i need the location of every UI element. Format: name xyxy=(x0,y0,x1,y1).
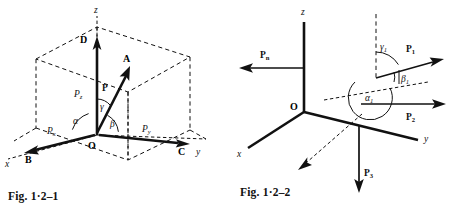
angle-arcs-fig2 xyxy=(348,52,399,120)
construction-lines-fig2 xyxy=(298,14,428,170)
figure-1-2-2-caption: Fig. 1·2–2 xyxy=(240,186,291,198)
p3-sub: 3 xyxy=(370,172,374,179)
vector-px-fig1 xyxy=(24,135,95,154)
point-a-label-fig1: A xyxy=(123,53,131,64)
figure-board: z D A O B C x y Pz P Px xyxy=(0,0,449,215)
px-sub: x xyxy=(52,130,56,137)
p2-sub: 2 xyxy=(412,116,416,123)
point-d-label-fig1: D xyxy=(80,34,87,45)
point-b-label-fig1: B xyxy=(25,154,32,165)
svg-text:P1: P1 xyxy=(406,44,415,55)
svg-text:Pn: Pn xyxy=(260,50,270,61)
angle-beta1-label-fig2: β1 xyxy=(400,74,409,85)
p1-sub: 1 xyxy=(412,48,415,55)
vector-pn-fig2: Pn xyxy=(239,50,304,73)
y-axis-label-fig2: y xyxy=(423,134,429,144)
point-o-label-fig2: O xyxy=(290,101,298,112)
svg-text:P2: P2 xyxy=(406,112,416,123)
figure-1-2-1-caption: Fig. 1·2–1 xyxy=(8,190,59,202)
x-axis-fig2: x xyxy=(236,112,304,159)
y-axis-label-fig1: y xyxy=(195,147,201,157)
label-pz-fig1: Pz xyxy=(73,89,83,100)
z-axis-label-fig2: z xyxy=(300,7,305,17)
label-p-fig1: P xyxy=(102,83,108,93)
svg-text:Py: Py xyxy=(141,124,151,135)
z-axis-fig2: z xyxy=(300,7,305,112)
angle-alpha1-label-fig2: α1 xyxy=(365,93,373,104)
point-o-label-fig1: O xyxy=(88,140,96,151)
z-axis-fig1 xyxy=(93,16,102,135)
figure-1-2-2: z x y O Pn xyxy=(228,0,449,215)
point-c-label-fig1: C xyxy=(178,146,185,157)
vector-p3-fig2: P3 xyxy=(354,126,374,193)
svg-text:Pz: Pz xyxy=(73,89,83,100)
label-py-fig1: Py xyxy=(141,124,151,135)
angle-gamma-label-fig1: γ xyxy=(100,102,104,112)
pz-sub: z xyxy=(79,93,83,100)
figure-1-2-1: z D A O B C x y Pz P Px xyxy=(0,0,228,215)
z-axis-label-fig1: z xyxy=(93,5,98,15)
angle-beta-label-fig1: β xyxy=(109,119,115,129)
svg-text:P: P xyxy=(102,83,108,93)
x-axis-label-fig2: x xyxy=(236,149,242,159)
label-px-fig1: Px xyxy=(46,126,56,137)
svg-text:P3: P3 xyxy=(364,168,374,179)
py-sub: y xyxy=(147,128,151,135)
x-axis-label-fig1: x xyxy=(4,159,10,169)
pn-sub: n xyxy=(266,54,270,61)
angle-gamma1-label-fig2: γ1 xyxy=(380,42,387,53)
angle-alpha-label-fig1: α xyxy=(73,116,79,126)
svg-text:Px: Px xyxy=(46,126,56,137)
